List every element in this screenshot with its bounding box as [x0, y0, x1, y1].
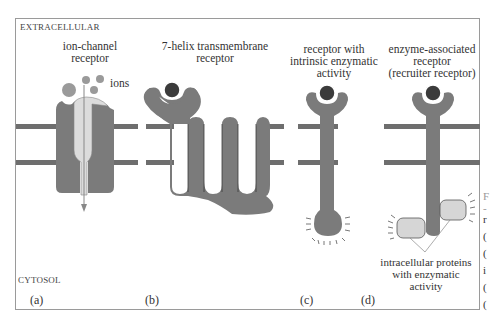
- intracellular-enzyme: [440, 200, 466, 220]
- enzyme-associated-receptor: [388, 85, 475, 252]
- intracellular-enzyme: [397, 218, 425, 238]
- seven-helix-receptor: [144, 82, 273, 215]
- ion-channel-receptor: [56, 75, 114, 212]
- receptor-diagram: [0, 0, 496, 330]
